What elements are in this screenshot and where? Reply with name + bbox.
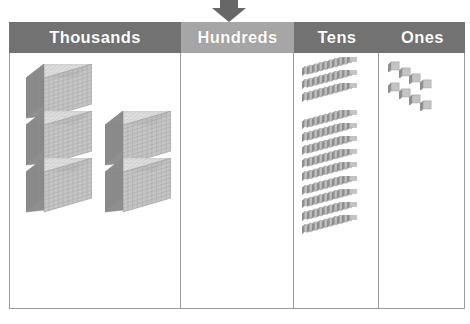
column-cell-hundreds[interactable] (181, 53, 294, 308)
thousand-cube (26, 158, 92, 220)
column-header-tens-label: Tens (318, 28, 357, 47)
column-header-ones[interactable]: Ones (380, 22, 465, 53)
one-unit (420, 97, 433, 110)
column-header-tens[interactable]: Tens (294, 22, 380, 53)
column-cell-thousands[interactable] (10, 53, 181, 308)
column-header-hundreds[interactable]: Hundreds (181, 22, 294, 53)
column-header-thousands-label: Thousands (49, 28, 141, 47)
column-cell-ones[interactable] (379, 53, 464, 308)
column-cell-tens[interactable] (294, 53, 380, 308)
hundred-flat-group (181, 53, 293, 308)
ten-rod-group (294, 53, 379, 308)
place-value-chart: Thousands Hundreds Tens Ones (9, 22, 465, 309)
ten-rod (302, 215, 358, 235)
chart-header-row: Thousands Hundreds Tens Ones (9, 22, 465, 53)
arrow-head (212, 8, 246, 22)
thousand-cube (105, 158, 171, 220)
thousand-cube-group (10, 53, 180, 308)
column-header-ones-label: Ones (401, 28, 444, 47)
column-header-thousands[interactable]: Thousands (9, 22, 181, 53)
ten-rod (302, 83, 358, 103)
chart-body-row (9, 53, 465, 309)
column-header-hundreds-label: Hundreds (197, 28, 277, 47)
one-unit-group (379, 53, 464, 308)
one-unit (420, 76, 433, 89)
down-arrow-marker (212, 0, 246, 22)
